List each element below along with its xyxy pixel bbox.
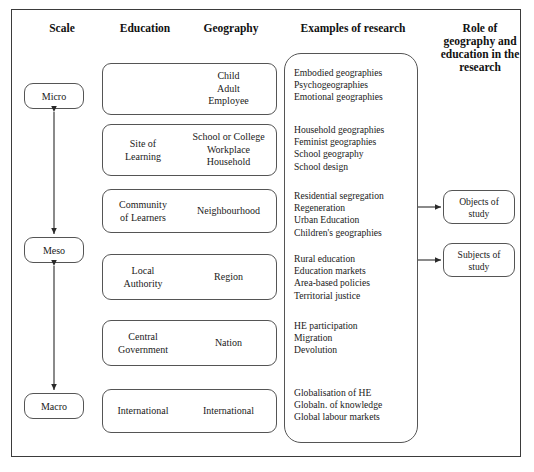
role-label-subjects: Subjects ofstudy <box>444 249 514 272</box>
role-box-subjects-of-study: Subjects ofstudy <box>443 243 515 277</box>
figure-canvas: Scale Education Geography Examples of re… <box>0 0 534 472</box>
column-header-scale: Scale <box>22 22 102 35</box>
row-box-community-of-learners: Communityof Learners Neighbourhood <box>102 189 277 233</box>
geography-label-4: Region <box>181 271 276 284</box>
research-group-1: Embodied geographiesPsychogeographiesEmo… <box>294 67 418 104</box>
row-box-central-government: CentralGovernment Nation <box>102 320 277 366</box>
education-label-3: Communityof Learners <box>105 199 181 224</box>
education-label-4: LocalAuthority <box>105 265 181 290</box>
scale-box-micro: Micro <box>24 83 84 109</box>
geography-label-1: ChildAdultEmployee <box>181 70 276 108</box>
education-label-2: Site ofLearning <box>105 138 181 163</box>
row-box-local-authority: LocalAuthority Region <box>102 254 277 300</box>
education-label-5: CentralGovernment <box>105 331 181 356</box>
row-box-international: International International <box>102 389 277 433</box>
scale-label-meso: Meso <box>25 245 83 256</box>
role-label-objects: Objects ofstudy <box>444 196 514 219</box>
column-header-education: Education <box>104 22 186 35</box>
research-group-6: Globalisation of HEGlobaln. of knowledge… <box>294 387 418 424</box>
column-header-role: Role of geography and education in the r… <box>438 22 522 74</box>
scale-label-macro: Macro <box>25 401 83 412</box>
column-header-examples-of-research: Examples of research <box>284 22 422 35</box>
row-box-site-of-learning: Site ofLearning School or CollegeWorkpla… <box>102 124 277 176</box>
scale-box-macro: Macro <box>24 393 84 419</box>
geography-label-2: School or CollegeWorkplaceHousehold <box>181 131 276 169</box>
scale-label-micro: Micro <box>25 91 83 102</box>
research-group-2: Household geographiesFeminist geographie… <box>294 124 418 173</box>
geography-label-3: Neighbourhood <box>181 205 276 218</box>
scale-box-meso: Meso <box>24 237 84 263</box>
row-box-learner: ChildAdultEmployee <box>102 63 277 115</box>
education-label-6: International <box>105 405 181 418</box>
research-group-5: HE participationMigrationDevolution <box>294 320 418 357</box>
research-group-3: Residential segregationRegenerationUrban… <box>294 190 418 239</box>
column-header-geography: Geography <box>186 22 276 35</box>
role-box-objects-of-study: Objects ofstudy <box>443 190 515 224</box>
research-group-4: Rural educationEducation marketsArea-bas… <box>294 253 418 302</box>
examples-of-research-box: Embodied geographiesPsychogeographiesEmo… <box>284 53 418 443</box>
geography-label-5: Nation <box>181 337 276 350</box>
geography-label-6: International <box>181 405 276 418</box>
